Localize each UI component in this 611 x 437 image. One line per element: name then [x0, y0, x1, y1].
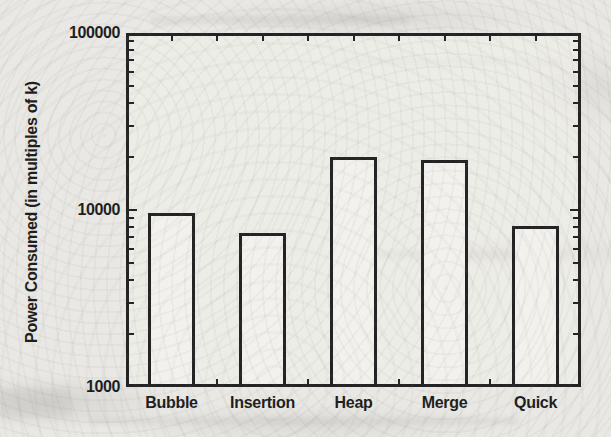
- y-minor-tick: [573, 226, 578, 228]
- x-category-label: Heap: [308, 394, 399, 412]
- y-minor-tick: [573, 236, 578, 238]
- x-axis-tick: [171, 36, 173, 41]
- x-axis-tick: [489, 379, 491, 384]
- y-major-tick: [570, 209, 578, 211]
- y-axis-tick-label: 100000: [40, 24, 120, 42]
- x-axis-tick: [307, 379, 309, 384]
- y-minor-tick: [573, 85, 578, 87]
- y-minor-tick: [129, 71, 134, 73]
- y-minor-tick: [573, 49, 578, 51]
- x-category-label: Bubble: [126, 394, 217, 412]
- x-category-label: Merge: [399, 394, 490, 412]
- power-consumed-bar-chart: Power Consumed (in multiples of k) 10001…: [0, 0, 611, 437]
- y-minor-tick: [129, 217, 134, 219]
- x-axis-tick: [444, 36, 446, 41]
- y-minor-tick: [129, 40, 134, 42]
- y-minor-tick: [129, 226, 134, 228]
- y-minor-tick: [129, 279, 134, 281]
- x-axis-tick: [398, 379, 400, 384]
- y-minor-tick: [129, 262, 134, 264]
- y-minor-tick: [573, 302, 578, 304]
- y-minor-tick: [573, 102, 578, 104]
- y-minor-tick: [573, 262, 578, 264]
- y-minor-tick: [129, 59, 134, 61]
- y-minor-tick: [573, 125, 578, 127]
- bar-insertion: [239, 233, 286, 387]
- y-minor-tick: [129, 302, 134, 304]
- y-minor-tick: [129, 333, 134, 335]
- x-category-label: Quick: [490, 394, 581, 412]
- y-minor-tick: [573, 40, 578, 42]
- scanned-paper-page: Power Consumed (in multiples of k) 10001…: [0, 0, 611, 437]
- y-minor-tick: [573, 333, 578, 335]
- x-axis-tick: [216, 36, 218, 41]
- y-minor-tick: [129, 85, 134, 87]
- y-minor-tick: [573, 279, 578, 281]
- bar-merge: [421, 160, 468, 387]
- y-minor-tick: [573, 59, 578, 61]
- y-axis-tick-label: 1000: [40, 378, 120, 396]
- y-minor-tick: [129, 156, 134, 158]
- y-minor-tick: [129, 49, 134, 51]
- x-axis-tick: [307, 36, 309, 41]
- y-minor-tick: [573, 217, 578, 219]
- y-axis-tick-label: 10000: [40, 201, 120, 219]
- bar-heap: [330, 157, 377, 387]
- bar-quick: [512, 226, 559, 387]
- bar-bubble: [148, 213, 195, 387]
- x-axis-tick: [398, 36, 400, 41]
- y-minor-tick: [129, 125, 134, 127]
- x-category-label: Insertion: [217, 394, 308, 412]
- y-minor-tick: [573, 248, 578, 250]
- y-minor-tick: [573, 71, 578, 73]
- x-axis-tick: [489, 36, 491, 41]
- x-axis-tick: [535, 36, 537, 41]
- x-axis-tick: [262, 36, 264, 41]
- x-axis-tick: [353, 36, 355, 41]
- y-major-tick: [129, 209, 137, 211]
- x-axis-tick: [216, 379, 218, 384]
- y-minor-tick: [573, 156, 578, 158]
- y-minor-tick: [129, 102, 134, 104]
- y-minor-tick: [129, 248, 134, 250]
- y-minor-tick: [129, 236, 134, 238]
